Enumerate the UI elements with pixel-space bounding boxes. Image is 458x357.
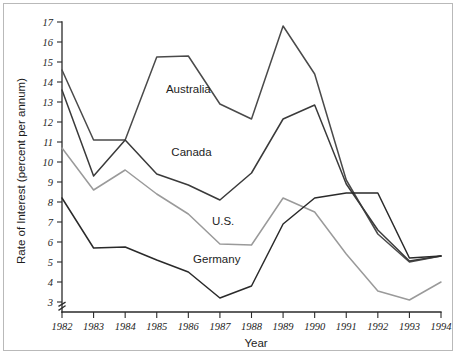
y-tick-label: 16	[43, 37, 54, 48]
y-axis-title: Rate of Interest (percent per annum)	[15, 78, 27, 264]
y-tick-label: 12	[43, 117, 54, 128]
figure-frame: 34567891011121314151617 1982198319841985…	[3, 3, 453, 351]
series-line-canada	[62, 90, 441, 261]
y-tick-label: 4	[48, 277, 54, 288]
y-tick-label: 7	[48, 217, 54, 228]
chart-plot-area: 34567891011121314151617 1982198319841985…	[4, 4, 454, 352]
y-tick-label: 5	[48, 257, 53, 268]
line-chart-svg: 34567891011121314151617 1982198319841985…	[4, 4, 454, 352]
series-label-canada: Canada	[171, 146, 212, 158]
y-tick-label: 13	[43, 97, 54, 108]
x-tick-label: 1989	[273, 321, 295, 332]
x-tick-label: 1987	[209, 321, 231, 332]
y-tick-label: 3	[47, 297, 53, 308]
y-tick-label: 9	[48, 177, 54, 188]
x-tick-label: 1983	[83, 321, 104, 332]
x-tick-label: 1992	[367, 321, 389, 332]
y-tick-label: 11	[43, 137, 53, 148]
x-tick-label: 1982	[52, 321, 74, 332]
x-axis-title: Year	[244, 337, 267, 349]
y-tick-label: 17	[43, 17, 54, 28]
data-series-group	[62, 26, 441, 300]
y-tick-label: 8	[48, 197, 54, 208]
x-tick-label: 1986	[178, 321, 200, 332]
series-label-group: AustraliaCanadaU.S.Germany	[166, 83, 241, 265]
y-axis-ticks: 34567891011121314151617	[43, 17, 63, 308]
x-axis-ticks: 1982198319841985198619871988198919901991…	[52, 312, 453, 332]
x-tick-label: 1991	[336, 321, 357, 332]
series-label-germany: Germany	[193, 253, 241, 265]
x-tick-label: 1993	[399, 321, 420, 332]
series-label-us: U.S.	[212, 215, 234, 227]
y-tick-label: 15	[43, 57, 54, 68]
y-tick-label: 10	[43, 157, 54, 168]
y-tick-label: 14	[43, 77, 54, 88]
series-line-us	[62, 148, 441, 300]
x-tick-label: 1990	[304, 321, 326, 332]
series-line-australia	[62, 26, 441, 262]
x-tick-label: 1985	[146, 321, 167, 332]
x-tick-label: 1988	[241, 321, 263, 332]
series-label-australia: Australia	[166, 83, 211, 95]
x-tick-label: 1984	[115, 321, 137, 332]
y-tick-label: 6	[48, 237, 54, 248]
x-tick-label: 1994	[431, 321, 453, 332]
